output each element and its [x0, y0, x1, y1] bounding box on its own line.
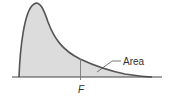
- f-value-label: F: [78, 84, 85, 95]
- area-label: Area: [123, 56, 145, 67]
- f-distribution-diagram: F Area: [0, 0, 175, 99]
